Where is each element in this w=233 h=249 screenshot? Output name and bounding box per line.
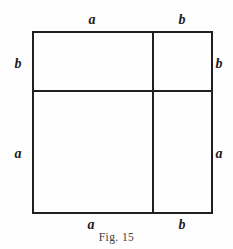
horizontal-divider-line (34, 90, 211, 92)
dimension-label-left-b: b (7, 57, 29, 71)
dimension-label-left-a: a (7, 147, 29, 161)
figure-container: a b b a b a a b Fig. 15 (0, 0, 233, 249)
dimension-label-right-a: a (208, 147, 230, 161)
vertical-divider-line (152, 33, 154, 212)
dimension-label-bottom-a: a (80, 218, 102, 232)
dimension-label-bottom-b: b (171, 218, 193, 232)
dimension-label-top-b: b (171, 13, 193, 27)
dimension-label-right-b: b (208, 57, 230, 71)
square-outline (32, 31, 213, 214)
figure-caption: Fig. 15 (0, 231, 233, 243)
dimension-label-top-a: a (81, 13, 103, 27)
